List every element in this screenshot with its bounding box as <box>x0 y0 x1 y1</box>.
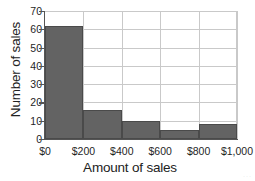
histogram-bar <box>199 124 237 139</box>
plot-area <box>45 11 237 139</box>
histogram-bar <box>83 110 121 139</box>
histogram-figure: Number of sales 010203040506070 $0$200$4… <box>0 0 255 181</box>
corner-watermark: ··· <box>243 173 252 179</box>
histogram-bar <box>122 121 160 139</box>
x-axis-tick-label: $200 <box>72 145 95 157</box>
bar-series <box>45 11 237 139</box>
histogram-bar <box>45 26 83 139</box>
x-axis-tick-label: $0 <box>39 145 51 157</box>
x-axis-tick-label: $800 <box>187 145 210 157</box>
histogram-bar <box>160 130 198 139</box>
y-axis-line <box>44 11 45 140</box>
x-axis-tick-label: $1,000 <box>221 145 253 157</box>
x-axis-tick-labels: $0$200$400$600$800$1,000 <box>45 145 237 159</box>
x-axis-tick-label: $600 <box>149 145 172 157</box>
x-axis-tick-label: $400 <box>110 145 133 157</box>
grid-line-vertical <box>237 11 238 139</box>
x-axis-line <box>40 139 238 140</box>
x-axis-title: Amount of sales <box>30 160 230 175</box>
